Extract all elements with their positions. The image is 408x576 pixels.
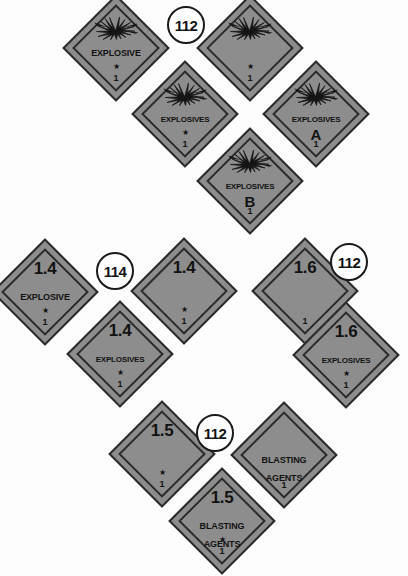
placard-outer-border	[168, 467, 275, 574]
placard-chart-sheet: EXPLOSIVE★1 ★1 EXPLOSIVES★1 EXPLOSIVESA1…	[0, 0, 408, 576]
placard-div-1-5-blasting-agents[interactable]: 1.5BLASTINGAGENTS★1	[178, 477, 266, 565]
guide-code-text: 112	[175, 17, 198, 34]
placard-explosives-b[interactable]: EXPLOSIVESB1	[206, 137, 294, 225]
placard-outer-border	[196, 127, 303, 234]
guide-code-circle-code-112-mid-right[interactable]: 112	[330, 243, 368, 281]
guide-code-circle-code-112-top[interactable]: 112	[167, 6, 205, 44]
placard-diamond-frame	[188, 119, 312, 243]
placard-outer-border	[66, 300, 173, 407]
placard-inner-border	[302, 311, 390, 399]
guide-code-circle-code-112-bottom[interactable]: 112	[196, 414, 234, 452]
guide-code-text: 114	[104, 263, 127, 280]
placard-div-1-4-explosives[interactable]: 1.4EXPLOSIVES★1	[76, 310, 164, 398]
guide-code-text: 112	[204, 425, 227, 442]
guide-code-text: 112	[338, 254, 361, 271]
placard-diamond-frame	[284, 293, 408, 417]
guide-code-circle-code-114-mid-left[interactable]: 114	[96, 252, 134, 290]
placard-outer-border	[292, 301, 399, 408]
placard-inner-border	[206, 137, 294, 225]
placard-div-1-6-explosives[interactable]: 1.6EXPLOSIVES★1	[302, 311, 390, 399]
placard-diamond-frame	[160, 459, 284, 576]
placard-inner-border	[76, 310, 164, 398]
placard-inner-border	[178, 477, 266, 565]
